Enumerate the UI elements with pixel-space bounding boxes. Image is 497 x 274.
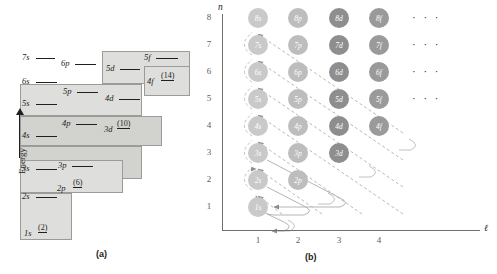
orbital-4f: 4f — [369, 116, 389, 136]
l-tick-2: 2 — [291, 235, 305, 245]
level-capacity-1s: (2) — [38, 224, 47, 233]
level-line-2s — [36, 197, 57, 198]
level-label-3d: 3d — [104, 124, 113, 134]
level-line-6s — [36, 82, 57, 83]
orbital-5f: 5f — [369, 89, 389, 109]
ellipsis-row-6: · · · — [412, 65, 441, 77]
level-label-5p: 5p — [63, 86, 72, 96]
orbital-8p: 8p — [288, 8, 308, 28]
level-capacity-2p: (6) — [73, 179, 82, 188]
level-label-4p: 4p — [62, 118, 71, 128]
level-line-6p — [75, 64, 96, 65]
level-line-5s — [36, 104, 57, 105]
orbital-energy-figure: 7s 6p 5f 5d 4f (14) 6s 5p 4d 5s 4p 3d (1… — [0, 0, 497, 274]
ellipsis-row-8: · · · — [412, 11, 441, 23]
n-tick-2: 2 — [202, 174, 216, 184]
orbital-8d: 8d — [329, 8, 349, 28]
level-line-5p — [77, 92, 98, 93]
level-label-4f: 4f — [147, 76, 154, 86]
n-tick-4: 4 — [202, 120, 216, 130]
orbital-6p: 6p — [288, 62, 308, 82]
orbital-5p: 5p — [288, 89, 308, 109]
n-tick-5: 5 — [202, 93, 216, 103]
panel-a-energy-diagram: 7s 6p 5f 5d 4f (14) 6s 5p 4d 5s 4p 3d (1… — [0, 0, 222, 274]
level-label-1s: 1s — [24, 228, 32, 238]
level-line-5f — [156, 58, 178, 59]
orbital-2p: 2p — [288, 170, 308, 190]
level-line-4p — [76, 124, 97, 125]
level-line-5d — [120, 69, 140, 70]
orbital-1s: 1s — [248, 197, 268, 217]
level-label-5s: 5s — [22, 98, 30, 108]
orbital-3s: 3s — [248, 143, 268, 163]
orbital-4d: 4d — [329, 116, 349, 136]
level-label-6p: 6p — [61, 58, 70, 68]
orbital-7s: 7s — [248, 35, 268, 55]
l-axis-line — [222, 230, 480, 231]
level-line-3s — [36, 169, 57, 170]
level-label-5f: 5f — [144, 52, 151, 62]
shell-box-n5 — [20, 116, 162, 146]
l-tick-3: 3 — [332, 235, 346, 245]
energy-axis: Energy — [14, 108, 26, 212]
ellipsis-row-7: · · · — [412, 38, 441, 50]
level-label-5d: 5d — [106, 63, 115, 73]
level-label-7s: 7s — [22, 52, 30, 62]
n-tick-6: 6 — [202, 66, 216, 76]
orbital-2s: 2s — [248, 170, 268, 190]
orbital-5d: 5d — [329, 89, 349, 109]
level-label-4d: 4d — [105, 93, 114, 103]
orbital-6f: 6f — [369, 62, 389, 82]
n-tick-1: 1 — [202, 201, 216, 211]
shell-box-n3 — [20, 160, 123, 193]
n-axis-line — [222, 14, 223, 230]
orbital-4s: 4s — [248, 116, 268, 136]
orbital-4p: 4p — [288, 116, 308, 136]
orbital-5s: 5s — [248, 89, 268, 109]
panel-b-caption: (b) — [305, 252, 317, 262]
level-capacity-4f: (14) — [161, 72, 174, 81]
ellipsis-row-5: · · · — [412, 92, 441, 104]
orbital-8f: 8f — [369, 8, 389, 28]
level-line-4s — [36, 136, 57, 137]
orbital-7p: 7p — [288, 35, 308, 55]
level-label-6s: 6s — [22, 76, 30, 86]
orbital-7f: 7f — [369, 35, 389, 55]
n-tick-8: 8 — [202, 12, 216, 22]
level-line-4d — [119, 99, 140, 100]
orbital-6d: 6d — [329, 62, 349, 82]
level-label-2p: 2p — [57, 183, 66, 193]
level-label-3p: 3p — [58, 160, 67, 170]
n-tick-7: 7 — [202, 39, 216, 49]
level-line-7s — [36, 58, 55, 59]
energy-axis-label: Energy — [17, 137, 27, 185]
l-axis-label: ℓ — [484, 223, 488, 233]
orbital-3d: 3d — [329, 143, 349, 163]
level-capacity-3d: (10) — [117, 120, 130, 129]
l-tick-1: 1 — [251, 235, 265, 245]
panel-a-caption: (a) — [96, 249, 107, 259]
orbital-7d: 7d — [329, 35, 349, 55]
n-axis-label: n — [218, 2, 223, 12]
n-tick-3: 3 — [202, 147, 216, 157]
level-line-3p — [72, 166, 93, 167]
orbital-3p: 3p — [288, 143, 308, 163]
orbital-6s: 6s — [248, 62, 268, 82]
shell-box-n6 — [20, 84, 142, 116]
orbital-8s: 8s — [248, 8, 268, 28]
l-tick-4: 4 — [372, 235, 386, 245]
panel-b-filling-order: n 8 7 6 5 4 3 2 1 ℓ 1 2 3 4 8s 8p 8d 8f … — [222, 0, 497, 274]
